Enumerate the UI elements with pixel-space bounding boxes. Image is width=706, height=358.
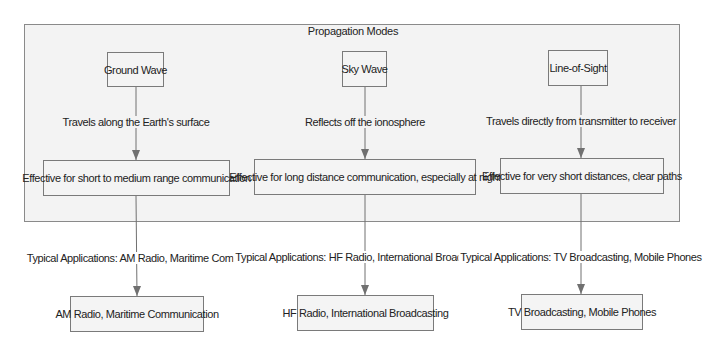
arrowhead-icon: [132, 150, 140, 160]
edge-label-ground-propagation: Travels along the Earth's surface: [61, 116, 212, 128]
arrowhead-icon: [361, 285, 369, 295]
node-line-of-sight: Line-of-Sight: [548, 50, 608, 86]
node-los-applications: TV Broadcasting, Mobile Phones: [521, 294, 643, 330]
arrowhead-icon: [577, 148, 585, 158]
node-los-effectiveness: Effective for very short distances, clea…: [500, 158, 664, 194]
node-sky-wave: Sky Wave: [342, 51, 387, 87]
edge-label-los-propagation: Travels directly from transmitter to rec…: [484, 115, 678, 127]
arrowhead-icon: [577, 284, 585, 294]
edge-label-los-applications: Typical Applications: TV Broadcasting, M…: [458, 251, 703, 263]
edge-label-ground-applications: Typical Applications: AM Radio, Maritime…: [25, 252, 250, 264]
node-ground-wave: Ground Wave: [107, 52, 164, 87]
edge-label-sky-propagation: Reflects off the ionosphere: [303, 116, 427, 128]
node-sky-effectiveness: Effective for long distance communicatio…: [254, 159, 476, 195]
edge-label-sky-applications: Typical Applications: HF Radio, Internat…: [233, 251, 496, 263]
node-ground-effectiveness: Effective for short to medium range comm…: [43, 160, 230, 196]
arrowhead-icon: [133, 286, 141, 296]
edge-ground-effect-to-apps: [136, 196, 137, 296]
node-sky-applications: HF Radio, International Broadcasting: [297, 295, 434, 331]
arrowhead-icon: [361, 149, 369, 159]
node-ground-applications: AM Radio, Maritime Communication: [70, 296, 204, 332]
